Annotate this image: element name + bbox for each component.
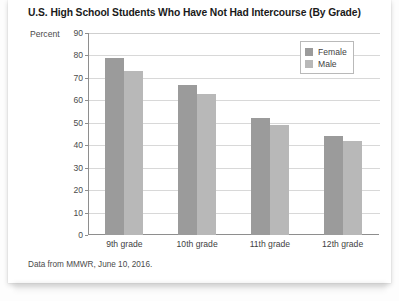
y-tick-label: 80 xyxy=(57,50,83,60)
x-tick-label: 9th grade xyxy=(88,239,161,249)
y-tick-label: 30 xyxy=(57,163,83,173)
y-tick-mark xyxy=(85,123,88,124)
bar-group xyxy=(105,33,143,235)
y-tick-mark xyxy=(85,33,88,34)
bar-female-12th-grade xyxy=(324,136,343,235)
bar-group xyxy=(178,33,216,235)
legend-swatch-icon xyxy=(305,60,313,68)
bar-male-10th-grade xyxy=(197,94,216,235)
bar-female-9th-grade xyxy=(105,58,124,235)
source-note: Data from MMWR, June 10, 2016. xyxy=(28,260,152,269)
bar-female-11th-grade xyxy=(251,118,270,235)
chart-title: U.S. High School Students Who Have Not H… xyxy=(28,7,361,18)
chart-legend: FemaleMale xyxy=(300,41,354,74)
bar-female-10th-grade xyxy=(178,85,197,235)
bar-male-11th-grade xyxy=(270,125,289,235)
x-tick-label: 11th grade xyxy=(234,239,307,249)
y-tick-mark xyxy=(85,213,88,214)
y-tick-mark xyxy=(85,145,88,146)
legend-item-female: Female xyxy=(305,46,347,57)
y-tick-mark xyxy=(85,190,88,191)
y-tick-mark xyxy=(85,55,88,56)
y-tick-label: 90 xyxy=(57,28,83,38)
legend-swatch-icon xyxy=(305,48,313,56)
y-tick-label: 40 xyxy=(57,140,83,150)
y-tick-label: 10 xyxy=(57,208,83,218)
legend-label: Female xyxy=(318,47,347,57)
y-tick-label: 50 xyxy=(57,118,83,128)
y-tick-mark xyxy=(85,168,88,169)
bar-group xyxy=(251,33,289,235)
legend-item-male: Male xyxy=(305,58,347,69)
bar-male-9th-grade xyxy=(124,71,143,235)
y-tick-mark xyxy=(85,100,88,101)
x-tick-label: 12th grade xyxy=(306,239,379,249)
y-axis-label: Percent xyxy=(30,29,60,39)
y-tick-label: 0 xyxy=(57,230,83,240)
x-tick-label: 10th grade xyxy=(161,239,234,249)
y-tick-mark xyxy=(85,235,88,236)
y-tick-label: 60 xyxy=(57,95,83,105)
y-tick-mark xyxy=(85,78,88,79)
chart-card: U.S. High School Students Who Have Not H… xyxy=(8,0,391,283)
y-tick-label: 20 xyxy=(57,185,83,195)
bar-male-12th-grade xyxy=(343,141,362,235)
y-tick-label: 70 xyxy=(57,73,83,83)
legend-label: Male xyxy=(318,59,337,69)
